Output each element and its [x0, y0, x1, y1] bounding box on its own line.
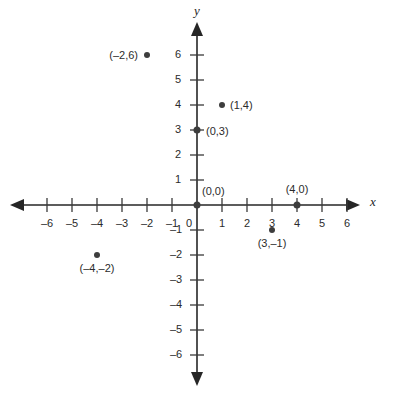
y-tick-label: –1: [170, 223, 182, 235]
y-tick-label: 6: [175, 48, 181, 60]
x-tick-label: –6: [41, 217, 53, 229]
data-point-label: (–4,–2): [80, 262, 115, 274]
y-tick-label: 1: [175, 173, 181, 185]
y-tick-label: 5: [175, 73, 181, 85]
x-tick-label: –4: [91, 217, 103, 229]
data-point[interactable]: [294, 202, 301, 209]
x-tick-label: –3: [116, 217, 128, 229]
data-point-label: (4,0): [286, 183, 309, 195]
y-tick-label: –6: [170, 348, 182, 360]
y-axis-down-arrow-icon: [191, 372, 203, 386]
coordinate-plane: x y –6 –5 –4 –3 –2 –1 0 1 2 3 4 5 6: [0, 0, 393, 395]
y-tick-label: 4: [175, 98, 181, 110]
data-point-label: (–2,6): [109, 49, 138, 61]
data-point[interactable]: [194, 127, 201, 134]
data-point[interactable]: [94, 252, 100, 258]
x-tick-label: 2: [244, 217, 250, 229]
y-tick-label: –5: [170, 323, 182, 335]
origin-tick-label: 0: [186, 217, 192, 229]
data-point[interactable]: [144, 52, 150, 58]
data-point[interactable]: [219, 102, 225, 108]
data-point-label: (0,3): [206, 125, 229, 137]
x-axis-label: x: [369, 194, 376, 209]
x-tick-label: 1: [219, 217, 225, 229]
x-tick-label: 6: [344, 217, 350, 229]
data-point-label: (1,4): [230, 99, 253, 111]
x-tick-label: –2: [141, 217, 153, 229]
y-tick-label: –3: [170, 273, 182, 285]
x-axis-tick-labels: –6 –5 –4 –3 –2 –1 0 1 2 3 4 5 6: [41, 217, 350, 229]
plotted-points: (–2,6) (1,4) (0,3) (0,0) (4,0) (3,–1) (–…: [80, 49, 309, 274]
y-axis-label: y: [192, 3, 200, 18]
y-tick-label: 2: [175, 148, 181, 160]
y-tick-label: –4: [170, 298, 182, 310]
y-axis-up-arrow-icon: [191, 22, 203, 36]
y-tick-label: –2: [170, 248, 182, 260]
data-point[interactable]: [194, 202, 201, 209]
data-point-label: (0,0): [202, 185, 225, 197]
y-tick-label: 3: [175, 123, 181, 135]
data-point[interactable]: [269, 227, 275, 233]
x-tick-label: –5: [66, 217, 78, 229]
x-axis-right-arrow-icon: [346, 199, 360, 211]
x-tick-label: 4: [294, 217, 300, 229]
data-point-label: (3,–1): [258, 237, 287, 249]
x-axis-left-arrow-icon: [10, 199, 24, 211]
x-tick-label: 5: [319, 217, 325, 229]
